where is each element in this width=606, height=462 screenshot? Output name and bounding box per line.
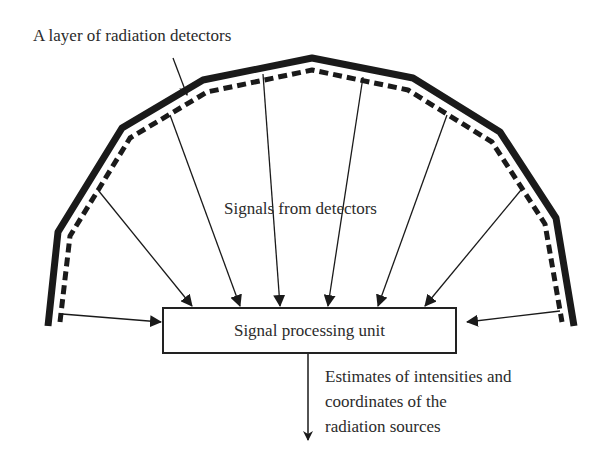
signals-label: Signals from detectors bbox=[224, 200, 377, 217]
signal-processing-unit-box: Signal processing unit bbox=[162, 307, 457, 354]
signal-arrow-left-3 bbox=[263, 74, 280, 306]
diagram-canvas bbox=[0, 0, 606, 462]
signal-arrow-right-2 bbox=[378, 115, 447, 306]
signal-processing-unit-label: Signal processing unit bbox=[234, 322, 385, 339]
detector-pointer-arrow bbox=[173, 58, 187, 95]
output-line-3: radiation sources bbox=[325, 414, 512, 439]
output-description: Estimates of intensities and coordinates… bbox=[325, 364, 512, 439]
output-line-2: coordinates of the bbox=[325, 389, 512, 414]
detector-layer-label: A layer of radiation detectors bbox=[33, 27, 231, 44]
signal-arrow-right-3 bbox=[328, 77, 363, 306]
signal-arrow-right-1 bbox=[425, 190, 521, 306]
output-line-1: Estimates of intensities and bbox=[325, 364, 512, 389]
signal-arrow-left-1 bbox=[98, 190, 192, 306]
signal-arrow-left-side bbox=[62, 314, 161, 322]
signal-arrow-right-side bbox=[467, 311, 560, 322]
detector-layer-dashed-line bbox=[60, 70, 562, 322]
detector-layer-solid-line bbox=[48, 58, 574, 326]
diagram-svg bbox=[0, 0, 606, 462]
